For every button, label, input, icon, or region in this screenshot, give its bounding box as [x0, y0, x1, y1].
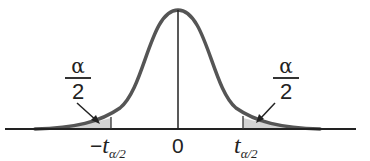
- left-alpha-over-2-label: α 2: [63, 56, 93, 103]
- left-alpha: α: [63, 56, 93, 76]
- bell-curve-graphic: [0, 0, 370, 161]
- t-distribution-diagram: α 2 α 2 −tα/2 0 tα/2: [0, 0, 370, 161]
- right-two: 2: [271, 81, 301, 103]
- right-alpha-over-2-label: α 2: [271, 56, 301, 103]
- zero-label: 0: [172, 134, 184, 158]
- right-alpha: α: [271, 56, 301, 76]
- t-alpha-half-label: tα/2: [234, 132, 258, 161]
- neg-t-alpha-half-label: −tα/2: [90, 132, 126, 161]
- left-two: 2: [63, 81, 93, 103]
